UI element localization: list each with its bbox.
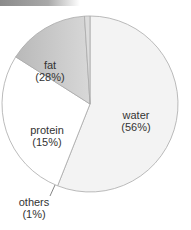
label-water: water (56%) bbox=[114, 109, 158, 133]
pie-slices bbox=[2, 16, 178, 196]
label-fat: fat (28%) bbox=[30, 59, 70, 83]
label-protein: protein (15%) bbox=[24, 124, 70, 148]
others-leader-line bbox=[50, 185, 55, 196]
label-others: others (1%) bbox=[14, 196, 54, 220]
